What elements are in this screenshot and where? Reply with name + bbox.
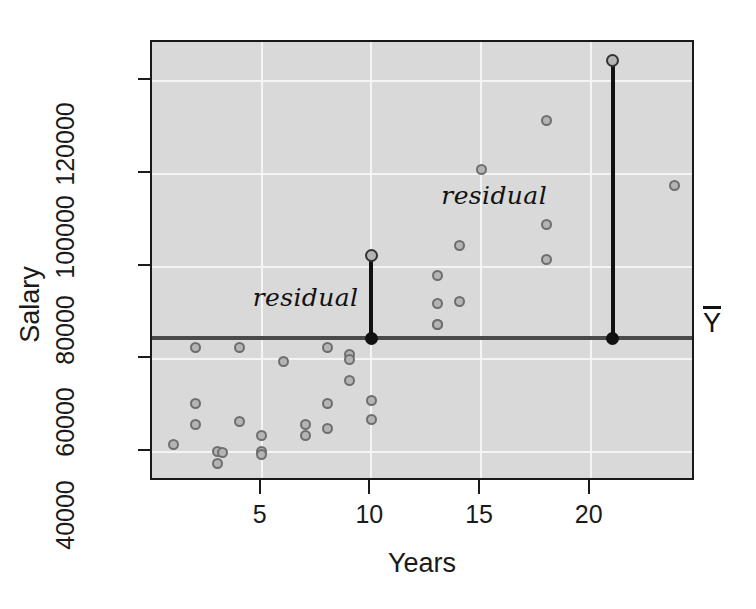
y-axis-tick-mark (138, 449, 150, 451)
x-axis-tick-label: 20 (575, 500, 603, 529)
x-axis-tick-mark (588, 480, 590, 494)
data-point (344, 354, 355, 365)
data-point (322, 423, 333, 434)
plot-panel: residualresidual (150, 40, 694, 480)
data-point (541, 219, 552, 230)
data-point (432, 270, 443, 281)
data-point (190, 398, 201, 409)
y-axis-tick-mark (138, 264, 150, 266)
gridline-horizontal (152, 451, 692, 453)
data-point (366, 395, 377, 406)
residual-annotation-label: residual (441, 180, 547, 209)
data-point (234, 416, 245, 427)
data-point (300, 430, 311, 441)
data-point (344, 375, 355, 386)
mean-line-label: Y (703, 306, 721, 337)
data-point (322, 342, 333, 353)
data-point (454, 296, 465, 307)
scatter-plot-figure: residualresidual 40000600008000010000012… (0, 0, 756, 609)
gridline-vertical (480, 42, 482, 478)
x-axis-tick-mark (259, 480, 261, 494)
data-point (541, 254, 552, 265)
data-point (212, 458, 223, 469)
data-point (234, 342, 245, 353)
data-point (669, 180, 680, 191)
residual-bottom-point (606, 332, 619, 345)
mean-line-label-letter: Y (703, 310, 721, 337)
residual-segment (369, 255, 373, 338)
x-axis-tick-label: 15 (465, 500, 493, 529)
data-point (300, 419, 311, 430)
y-axis-tick-mark (138, 78, 150, 80)
residual-segment (611, 61, 615, 339)
data-point (322, 398, 333, 409)
y-axis-title: Salary (0, 0, 60, 609)
data-point (366, 414, 377, 425)
data-point (256, 430, 267, 441)
data-point (190, 342, 201, 353)
data-point (476, 164, 487, 175)
residual-bottom-point (365, 332, 378, 345)
y-axis-tick-mark (138, 171, 150, 173)
data-point (454, 240, 465, 251)
gridline-vertical (590, 42, 592, 478)
x-axis-tick-mark (478, 480, 480, 494)
data-point (541, 115, 552, 126)
x-axis-tick-mark (368, 480, 370, 494)
data-point (256, 449, 267, 460)
data-point (278, 356, 289, 367)
x-axis-tick-label: 10 (355, 500, 383, 529)
data-point (432, 319, 443, 330)
x-axis-tick-label: 5 (253, 500, 267, 529)
y-axis-tick-mark (138, 356, 150, 358)
residual-top-point (606, 54, 619, 67)
x-axis-title: Years (150, 548, 694, 579)
data-point (217, 447, 228, 458)
residual-annotation-label: residual (253, 282, 359, 311)
residual-top-point (365, 249, 378, 262)
data-point (168, 439, 179, 450)
data-point (190, 419, 201, 430)
data-point (432, 298, 443, 309)
gridline-vertical (261, 42, 263, 478)
gridline-horizontal (152, 358, 692, 360)
